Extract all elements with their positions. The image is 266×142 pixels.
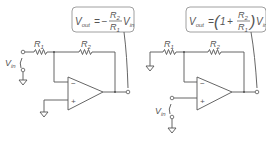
svg-text:+: + <box>71 97 76 106</box>
svg-text:−: − <box>200 79 205 88</box>
svg-text:R2: R2 <box>81 39 92 50</box>
inverting-gain-equation: Vout = − R2 R1 Vin <box>72 7 135 33</box>
output-terminal <box>126 90 130 94</box>
callout-arrow <box>124 32 128 88</box>
input-terminal <box>170 96 174 100</box>
input-terminal <box>21 50 25 54</box>
svg-text:): ) <box>248 13 255 30</box>
svg-text:−: − <box>71 79 76 88</box>
svg-text:+: + <box>227 16 233 27</box>
resistor-r2 <box>79 50 92 55</box>
resistor-r2 <box>208 50 221 55</box>
svg-text:R2: R2 <box>210 39 221 50</box>
ground-icon <box>40 112 48 117</box>
svg-text:+: + <box>200 97 205 106</box>
output-terminal <box>255 90 259 94</box>
svg-text:R1: R1 <box>164 39 174 50</box>
callout-arrow <box>251 32 257 88</box>
svg-text:1: 1 <box>220 16 226 27</box>
non-inverting-amplifier-circuit: Vout = ( 1 + R2 R1 ) Vin R1 R2 − + <box>146 7 266 133</box>
resistor-r1 <box>163 50 176 55</box>
ground-icon <box>168 128 176 133</box>
ground-icon <box>19 80 27 85</box>
resistor-r1 <box>34 50 47 55</box>
svg-text:=: = <box>94 16 100 27</box>
ground-icon <box>146 66 154 71</box>
inverting-amplifier-circuit: Vout = − R2 R1 Vin R1 R2 − + <box>5 7 135 117</box>
svg-text:−: − <box>101 16 107 27</box>
svg-text:R1: R1 <box>34 39 44 50</box>
non-inverting-gain-equation: Vout = ( 1 + R2 R1 ) Vin <box>186 7 266 33</box>
svg-text:Vin: Vin <box>155 106 166 117</box>
svg-text:Vin: Vin <box>5 58 16 69</box>
